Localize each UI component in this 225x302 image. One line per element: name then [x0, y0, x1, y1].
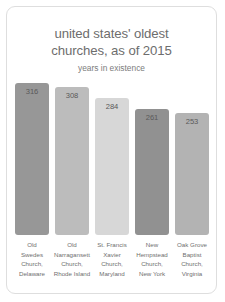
- bar-slot: 308: [55, 83, 89, 235]
- x-axis-label: Old Narragansett Church, Rhode Island: [53, 240, 91, 278]
- bar[interactable]: 316: [15, 83, 49, 235]
- x-axis-label: Oak Grove Baptist Church, Virginia: [173, 240, 211, 278]
- x-axis-label: Old Swedes Church, Delaware: [13, 240, 51, 278]
- chart-card: united states' oldest churches, as of 20…: [6, 6, 217, 294]
- x-axis-label: New Hempstead Church, New York: [133, 240, 171, 278]
- x-axis-label: St. Francis Xavier Church, Maryland: [93, 240, 131, 278]
- axis-labels: Old Swedes Church, Delaware Old Narragan…: [15, 240, 210, 288]
- bar[interactable]: 284: [95, 98, 129, 235]
- bar-value-label: 308: [55, 91, 89, 100]
- bar[interactable]: 261: [135, 109, 169, 235]
- bar-value-label: 253: [175, 117, 209, 126]
- bar-value-label: 284: [95, 102, 129, 111]
- chart-subtitle: years in existence: [7, 63, 216, 74]
- bar-slot: 261: [135, 83, 169, 235]
- bar[interactable]: 308: [55, 87, 89, 235]
- bar-slot: 284: [95, 83, 129, 235]
- bar[interactable]: 253: [175, 113, 209, 235]
- bar-slot: 316: [15, 83, 49, 235]
- bar-slot: 253: [175, 83, 209, 235]
- chart-title: united states' oldest churches, as of 20…: [7, 26, 216, 59]
- bar-value-label: 261: [135, 113, 169, 122]
- plot-area: 316 308 284 261 253: [15, 83, 210, 235]
- bar-value-label: 316: [15, 87, 49, 96]
